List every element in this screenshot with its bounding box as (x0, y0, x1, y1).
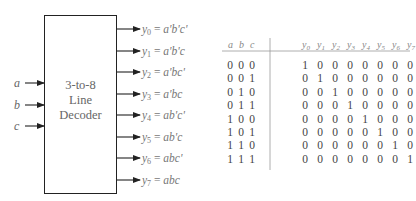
decoder-title-line3: Decoder (44, 108, 117, 123)
header-subscript: 4 (366, 44, 370, 52)
output-label-y5: y5 = ab'c (142, 131, 182, 147)
table-cell-output: 0 (405, 99, 415, 111)
table-cell-output: 0 (375, 153, 385, 165)
table-cell-output: 0 (390, 126, 400, 138)
table-cell-output: 0 (345, 139, 355, 151)
header-subscript: 2 (336, 44, 340, 52)
table-cell-output: 0 (345, 86, 355, 98)
table-cell-output: 0 (405, 86, 415, 98)
table-cell-output: 0 (405, 113, 415, 125)
decoder-title: 3-to-8 Line Decoder (44, 78, 117, 123)
table-cell-output: 0 (375, 99, 385, 111)
table-header-output: y3 (347, 39, 355, 52)
output-label-y7: y7 = abc (142, 174, 180, 190)
input-label-b: b (14, 99, 24, 111)
table-cell-input: 1 (225, 139, 235, 151)
table-cell-input: 1 (225, 153, 235, 165)
table-header-input: c (250, 39, 254, 50)
table-header-output: y4 (362, 39, 370, 52)
table-cell-output: 0 (300, 153, 310, 165)
table-cell-input: 0 (225, 99, 235, 111)
table-cell-output: 0 (390, 59, 400, 71)
table-cell-input: 0 (225, 59, 235, 71)
decoder-title-line1: 3-to-8 (44, 78, 117, 93)
header-subscript: 3 (351, 44, 355, 52)
table-cell-input: 0 (236, 113, 246, 125)
output-label-y2: y2 = a'bc' (142, 66, 185, 82)
table-cell-input: 0 (225, 86, 235, 98)
table-cell-output: 0 (300, 113, 310, 125)
table-cell-output: 1 (375, 126, 385, 138)
table-cell-output: 0 (360, 139, 370, 151)
table-cell-input: 1 (236, 153, 246, 165)
table-cell-input: 1 (236, 139, 246, 151)
table-cell-input: 1 (247, 72, 257, 84)
table-cell-output: 0 (345, 72, 355, 84)
table-cell-output: 1 (405, 153, 415, 165)
table-cell-output: 0 (390, 99, 400, 111)
table-cell-input: 1 (236, 99, 246, 111)
table-cell-output: 0 (360, 126, 370, 138)
output-label-y6: y6 = abc' (142, 152, 182, 168)
table-cell-output: 0 (300, 126, 310, 138)
table-cell-input: 0 (236, 126, 246, 138)
table-cell-output: 0 (330, 99, 340, 111)
output-label-y0: y0 = a'b'c' (142, 23, 187, 39)
table-cell-output: 0 (315, 139, 325, 151)
table-cell-output: 0 (315, 59, 325, 71)
table-cell-output: 0 (375, 113, 385, 125)
table-cell-output: 1 (390, 139, 400, 151)
table-cell-input: 1 (236, 86, 246, 98)
header-subscript: 0 (306, 44, 310, 52)
table-cell-output: 0 (360, 86, 370, 98)
table-cell-input: 0 (247, 113, 257, 125)
table-cell-output: 0 (315, 126, 325, 138)
table-cell-input: 1 (225, 126, 235, 138)
table-cell-output: 0 (390, 153, 400, 165)
table-cell-output: 0 (300, 139, 310, 151)
table-header-output: y1 (317, 39, 325, 52)
table-cell-input: 0 (247, 59, 257, 71)
table-cell-input: 0 (236, 59, 246, 71)
table-cell-input: 1 (247, 99, 257, 111)
table-cell-input: 0 (247, 139, 257, 151)
table-cell-output: 0 (405, 59, 415, 71)
table-header-output: y0 (302, 39, 310, 52)
table-cell-input: 0 (236, 72, 246, 84)
table-cell-output: 0 (405, 126, 415, 138)
table-header-output: y7 (407, 39, 415, 52)
header-subscript: 7 (411, 44, 415, 52)
output-label-y1: y1 = a'b'c (142, 45, 185, 61)
table-cell-output: 0 (390, 113, 400, 125)
table-cell-output: 0 (375, 59, 385, 71)
table-cell-output: 1 (330, 86, 340, 98)
table-header-output: y5 (377, 39, 385, 52)
table-cell-output: 0 (300, 72, 310, 84)
table-cell-output: 0 (360, 99, 370, 111)
table-header-input: a (228, 39, 233, 50)
table-cell-output: 1 (345, 99, 355, 111)
input-label-a: a (14, 77, 24, 89)
table-cell-output: 0 (375, 86, 385, 98)
table-cell-output: 0 (330, 153, 340, 165)
table-cell-input: 0 (225, 72, 235, 84)
table-cell-output: 0 (345, 113, 355, 125)
table-cell-output: 0 (330, 113, 340, 125)
table-cell-input: 1 (225, 113, 235, 125)
table-cell-output: 1 (360, 113, 370, 125)
table-cell-output: 0 (375, 72, 385, 84)
table-cell-output: 0 (300, 99, 310, 111)
output-label-y3: y3 = a'bc (142, 88, 182, 104)
header-subscript: 5 (381, 44, 385, 52)
header-subscript: 1 (321, 44, 325, 52)
header-subscript: 6 (396, 44, 400, 52)
table-cell-output: 0 (345, 126, 355, 138)
table-cell-output: 0 (375, 139, 385, 151)
table-header-output: y2 (332, 39, 340, 52)
table-cell-output: 0 (405, 72, 415, 84)
table-cell-output: 0 (345, 153, 355, 165)
table-cell-output: 0 (345, 59, 355, 71)
table-cell-input: 0 (247, 86, 257, 98)
table-cell-output: 0 (360, 153, 370, 165)
table-cell-output: 1 (300, 59, 310, 71)
